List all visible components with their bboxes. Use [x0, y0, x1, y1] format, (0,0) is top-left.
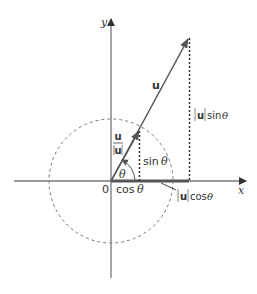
svg-text:u: u	[114, 145, 121, 156]
x-axis-label: x	[238, 184, 245, 197]
svg-text:θ: θ	[207, 191, 213, 202]
svg-text:u: u	[180, 191, 187, 202]
svg-text:cos: cos	[190, 191, 207, 202]
vector-diagram: y x 0 u u u θ sin θ cos θ u sin θ u cos …	[0, 0, 257, 294]
unit-vector-label: u u	[113, 131, 123, 156]
u-cos-theta-label: u cos θ	[178, 189, 213, 202]
svg-text:sin: sin	[143, 155, 159, 168]
svg-text:u: u	[197, 110, 204, 121]
theta-label: θ	[119, 168, 126, 181]
u-cos-leader	[161, 183, 176, 190]
svg-text:θ: θ	[137, 183, 144, 196]
svg-text:θ: θ	[222, 110, 228, 121]
cos-theta-label: cos θ	[116, 183, 144, 196]
sin-theta-label: sin θ	[143, 155, 168, 168]
vector-u-label: u	[152, 79, 160, 92]
svg-text:θ: θ	[161, 155, 168, 168]
svg-text:cos: cos	[116, 183, 135, 196]
origin-label: 0	[102, 183, 109, 196]
y-axis-label: y	[100, 16, 108, 29]
u-sin-theta-label: u sin θ	[195, 108, 228, 121]
svg-text:sin: sin	[207, 110, 221, 121]
svg-text:u: u	[114, 131, 121, 142]
